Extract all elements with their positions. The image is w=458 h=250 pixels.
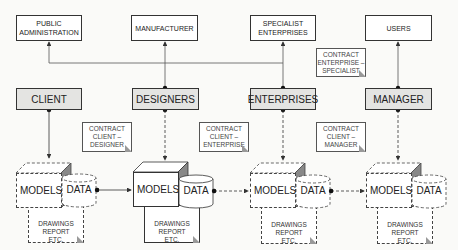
connector-dots	[0, 0, 458, 250]
